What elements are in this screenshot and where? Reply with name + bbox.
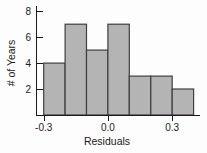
histogram-bar [108,24,129,115]
x-axis-label: Residuals [84,136,130,147]
x-tick-label: 0.3 [165,122,179,133]
residuals-histogram-figure: 2468-0.30.00.3 # of Years Residuals [0,0,207,153]
histogram-canvas: 2468-0.30.00.3 [0,0,207,153]
y-tick-label: 4 [25,58,31,69]
histogram-bar [65,24,86,115]
histogram-bar [172,89,193,115]
x-tick-label: 0.0 [101,122,115,133]
y-axis-label: # of Years [6,40,17,87]
y-tick-label: 8 [25,6,31,17]
histogram-bar [129,76,150,115]
histogram-bar [87,50,108,115]
histogram-bar [151,76,172,115]
histogram-bar [44,63,65,115]
y-tick-label: 2 [25,84,31,95]
x-tick-label: -0.3 [35,122,53,133]
y-tick-label: 6 [25,32,31,43]
